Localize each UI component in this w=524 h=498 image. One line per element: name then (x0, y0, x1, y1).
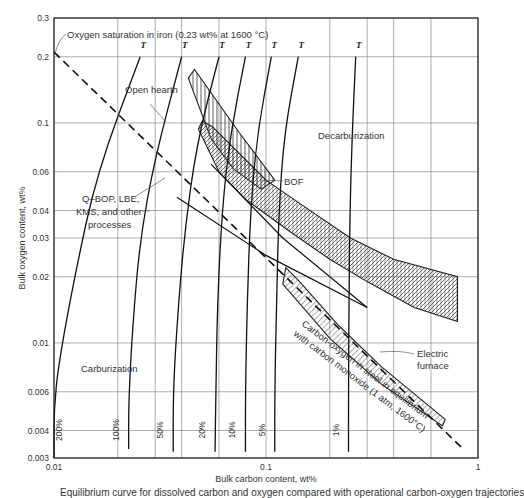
region-bof (198, 121, 457, 322)
annotation-qbop-3: processes (88, 219, 132, 230)
annotation-qbop-1: Q–BOP, LBE, (82, 193, 139, 204)
y-tick-label: 0.03 (32, 233, 49, 243)
annotation-decarburization: Decarburization (318, 130, 385, 141)
leader-open-hearth (150, 104, 166, 122)
leader-electric (380, 351, 414, 354)
x-axis-title: Bulk carbon content, wt% (215, 474, 317, 484)
y-axis-title: Bulk oxygen content, wt% (17, 186, 27, 289)
annotation-bof: BOF (284, 176, 304, 187)
pressure-curve-label: 20% (197, 421, 207, 438)
pressure-curve-200pct (54, 57, 140, 458)
y-tick-label: 0.06 (32, 167, 49, 177)
curve-marker-T: T (140, 40, 146, 50)
x-tick-label: 0.1 (260, 462, 272, 472)
curve-marker-T: T (246, 40, 252, 50)
pressure-curve-label: 200% (54, 419, 64, 441)
annotation-carburization: Carburization (81, 363, 138, 374)
x-tick-label: 1 (476, 462, 481, 472)
annotation-equilibrium-1: Carbon-oxygen in steel in equilibrium (300, 318, 432, 421)
x-tick-label: 0.01 (46, 462, 63, 472)
pressure-curve-label: 5% (257, 423, 267, 436)
pressure-curve-label: 100% (111, 419, 121, 441)
pressure-curve-label: 1% (331, 423, 341, 436)
annotation-electric-1: Electric (417, 348, 448, 359)
curve-marker-T: T (182, 40, 188, 50)
y-tick-label: 0.02 (32, 272, 49, 282)
pressure-curve-label: 50% (155, 421, 165, 438)
curve-marker-T: T (356, 40, 362, 50)
pressure-curve-5pct (275, 57, 299, 452)
annotation-open-hearth: Open hearth (125, 84, 178, 95)
leader-oxygen-saturation (55, 34, 66, 54)
annotation-oxygen-saturation: Oxygen saturation in iron (0.23 wt% at 1… (67, 29, 268, 40)
y-tick-label: 0.003 (28, 453, 50, 463)
y-tick-label: 0.3 (37, 13, 49, 23)
pressure-curve-10pct (245, 57, 271, 452)
y-tick-label: 0.006 (28, 387, 50, 397)
y-tick-label: 0.01 (32, 338, 49, 348)
curve-marker-T: T (299, 40, 305, 50)
y-tick-label: 0.2 (37, 52, 49, 62)
annotation-qbop-2: KMS, and other (76, 206, 142, 217)
curve-marker-T: T (272, 40, 278, 50)
annotation-electric-2: furnace (417, 360, 449, 371)
pressure-curve-label: 10% (227, 421, 237, 438)
y-tick-label: 0.04 (32, 206, 49, 216)
curve-marker-T: T (219, 40, 225, 50)
y-tick-label: 0.004 (28, 426, 50, 436)
figure-caption: Equilibrium curve for dissolved carbon a… (60, 487, 524, 498)
y-tick-label: 0.1 (37, 118, 49, 128)
